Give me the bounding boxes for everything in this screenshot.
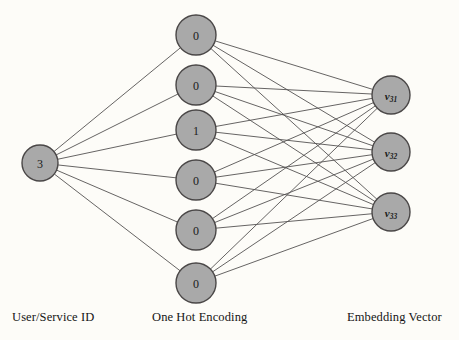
connection-edge	[213, 163, 376, 272]
node-label-in-0: 3	[37, 157, 43, 171]
edge-group-hidden-to-output	[210, 41, 377, 276]
connection-edge	[216, 86, 372, 94]
connection-edge	[54, 48, 181, 152]
layer-caption-input: User/Service ID	[12, 310, 94, 325]
node-label-oh-0: 0	[193, 29, 199, 43]
connection-edge	[211, 48, 377, 199]
node-group-output: v31v32v33	[372, 76, 410, 231]
connection-edge	[54, 174, 180, 271]
connection-edge	[216, 98, 373, 126]
connection-edge	[58, 134, 177, 159]
connection-edge	[216, 132, 372, 150]
node-group-input: 3	[22, 145, 58, 181]
node-group-hidden: 001000	[176, 15, 216, 303]
layer-caption-embedding-vector: Embedding Vector	[347, 310, 442, 325]
connection-edge	[213, 96, 375, 202]
network-svg: 3 001000 v31v32v33	[0, 0, 459, 340]
connection-edge	[213, 45, 375, 142]
connection-edge	[58, 165, 176, 178]
node-label-oh-1: 0	[193, 79, 199, 93]
connection-edge	[215, 159, 374, 223]
layer-caption-one-hot-encoding: One Hot Encoding	[152, 310, 247, 325]
connection-edge	[215, 219, 373, 277]
connection-edge	[56, 94, 178, 155]
connection-edge	[57, 170, 178, 222]
node-label-oh-5: 0	[193, 277, 199, 291]
edge-group-input-to-hidden	[54, 48, 181, 271]
connection-edge	[215, 41, 373, 90]
node-label-oh-4: 0	[193, 224, 199, 238]
node-label-oh-2: 1	[193, 124, 199, 138]
connection-edge	[216, 214, 372, 228]
connection-edge	[210, 108, 377, 269]
neural-network-diagram: 3 001000 v31v32v33 User/Service ID One H…	[0, 0, 459, 340]
node-label-oh-3: 0	[193, 174, 199, 188]
connection-edge	[216, 183, 373, 209]
